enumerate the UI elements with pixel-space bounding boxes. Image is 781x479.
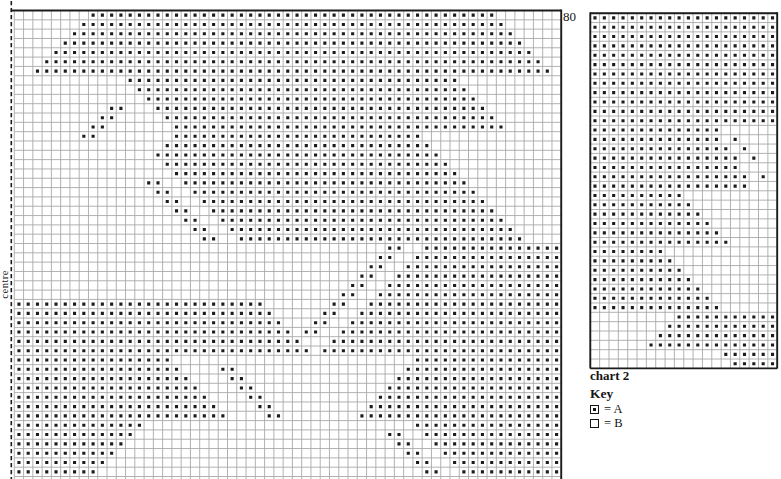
knitting-charts-canvas bbox=[0, 0, 781, 479]
key-row-b: = B bbox=[590, 416, 623, 431]
key-a-label: = A bbox=[604, 402, 623, 417]
key-b-label: = B bbox=[604, 416, 623, 431]
chart-page: 80 centre chart 2 Key = A = B bbox=[0, 0, 781, 479]
row-number-80: 80 bbox=[563, 9, 576, 25]
centre-line-label: centre bbox=[0, 270, 10, 299]
empty-square-icon bbox=[590, 419, 599, 428]
dotted-square-icon bbox=[590, 405, 599, 414]
key-title: Key bbox=[590, 386, 613, 402]
key-row-a: = A bbox=[590, 402, 623, 417]
chart-2-caption: chart 2 bbox=[590, 368, 629, 384]
